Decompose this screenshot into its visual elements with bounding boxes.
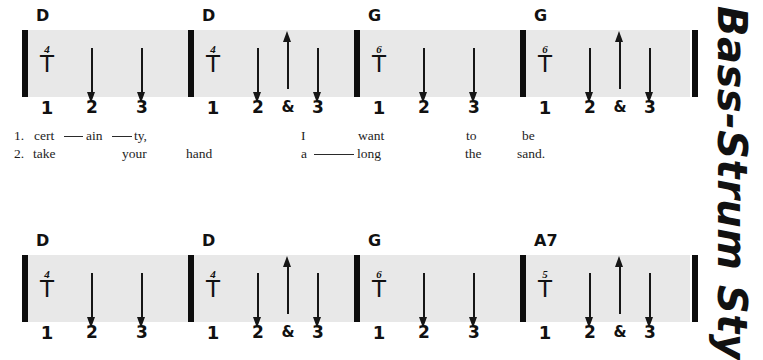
measure[interactable]: G 6 T 1 2 & [520,0,698,125]
beat-count: 3 [133,98,151,117]
arrow-head [615,256,623,267]
measure[interactable]: D 4 T 1 2 3 [22,225,188,350]
arrow-shaft [649,48,651,96]
arrow-shaft [91,48,93,96]
beat-count: 3 [641,323,659,342]
arrow-shaft [141,273,143,321]
beat-count: 3 [133,323,151,342]
bass-note: 6 T [534,44,556,75]
lyric-word: want [358,128,384,144]
barline [354,30,360,97]
chord-symbol: G [368,233,381,249]
beat-count: 1 [38,98,56,117]
beat-count: 2 [581,323,599,342]
thumb-bass-symbol: T [36,54,58,75]
arrow-shaft [141,48,143,96]
lyric-word: a [301,146,307,162]
beat-count: 1 [370,323,388,342]
chord-symbol: G [368,8,381,24]
bass-note: 4 T [202,44,224,75]
arrow-shaft [473,273,475,321]
bass-note: 6 T [368,44,390,75]
barline [188,30,194,97]
lyric-word: your [122,146,147,162]
beat-count: 1 [204,98,222,117]
lyric-word: be [522,128,535,144]
lyric-word: hand [186,146,212,162]
measure[interactable]: G 6 T 1 2 3 [354,0,520,125]
beat-count: 3 [465,323,483,342]
thumb-bass-symbol: T [202,279,224,300]
arrow-shaft [317,48,319,96]
upstroke-arrow-icon [281,32,295,92]
arrow-shaft [589,48,591,96]
beat-count: 1 [38,323,56,342]
arrow-shaft [257,273,259,321]
bass-note: 4 T [202,269,224,300]
measure-group: D 4 T 1 2 3 D [0,0,700,125]
arrow-shaft [619,267,621,314]
barline-final [692,30,698,97]
beat-count: 2 [249,323,267,342]
beat-count: 1 [536,323,554,342]
arrow-head [283,256,291,267]
chord-symbol: D [36,8,49,24]
barline [22,30,28,97]
running-head-title: Bass-Strum Sty [709,6,755,360]
measure[interactable]: A7 5 T 1 2 & [520,225,698,350]
bass-note: 5 T [534,269,556,300]
beat-count: 1 [370,98,388,117]
thumb-bass-symbol: T [534,279,556,300]
lyric-word: to [466,128,477,144]
beat-count: & [611,323,629,342]
lyric-verse-1: 1. cert ain ty, I want to be [0,128,700,146]
beat-count: 2 [83,323,101,342]
barline [520,255,526,322]
verse-number: 2. [14,146,24,162]
measure[interactable]: D 4 T 1 2 & [188,225,354,350]
music-system-2: D 4 T 1 2 3 D [0,225,700,351]
bass-note: 6 T [368,269,390,300]
beat-count: 2 [415,98,433,117]
verse-number: 1. [14,128,24,144]
melisma-line [314,154,354,155]
beat-count: & [279,98,297,117]
barline [354,255,360,322]
arrow-shaft [473,48,475,96]
barline [520,30,526,97]
thumb-bass-symbol: T [534,54,556,75]
thumb-bass-symbol: T [368,279,390,300]
arrow-shaft [287,42,289,89]
lyric-word: the [465,146,482,162]
arrow-shaft [317,273,319,321]
thumb-bass-symbol: T [202,54,224,75]
arrow-shaft [619,42,621,89]
barline [22,255,28,322]
lyric-word: take [33,146,56,162]
beat-count: 2 [581,98,599,117]
music-system-1: D 4 T 1 2 3 D [0,0,700,175]
beat-count: 3 [641,98,659,117]
measure[interactable]: D 4 T 1 2 & [188,0,354,125]
measure[interactable]: G 6 T 1 2 3 [354,225,520,350]
thumb-bass-symbol: T [36,279,58,300]
chord-symbol: D [202,233,215,249]
melisma-line [112,136,132,137]
lyric-word: ty, [134,128,147,144]
lyric-word: I [301,128,306,144]
measure[interactable]: D 4 T 1 2 3 [22,0,188,125]
chord-symbol: D [202,8,215,24]
bass-note: 4 T [36,44,58,75]
beat-count: 3 [465,98,483,117]
upstroke-arrow-icon [613,257,627,317]
beat-count: 3 [309,323,327,342]
chord-symbol: A7 [534,233,558,249]
lyric-word: sand. [517,146,545,162]
lyric-word: ain [86,128,103,144]
barline [188,255,194,322]
beat-count: & [611,98,629,117]
arrow-head [615,31,623,42]
upstroke-arrow-icon [281,257,295,317]
measure-group: D 4 T 1 2 3 D [0,225,700,350]
